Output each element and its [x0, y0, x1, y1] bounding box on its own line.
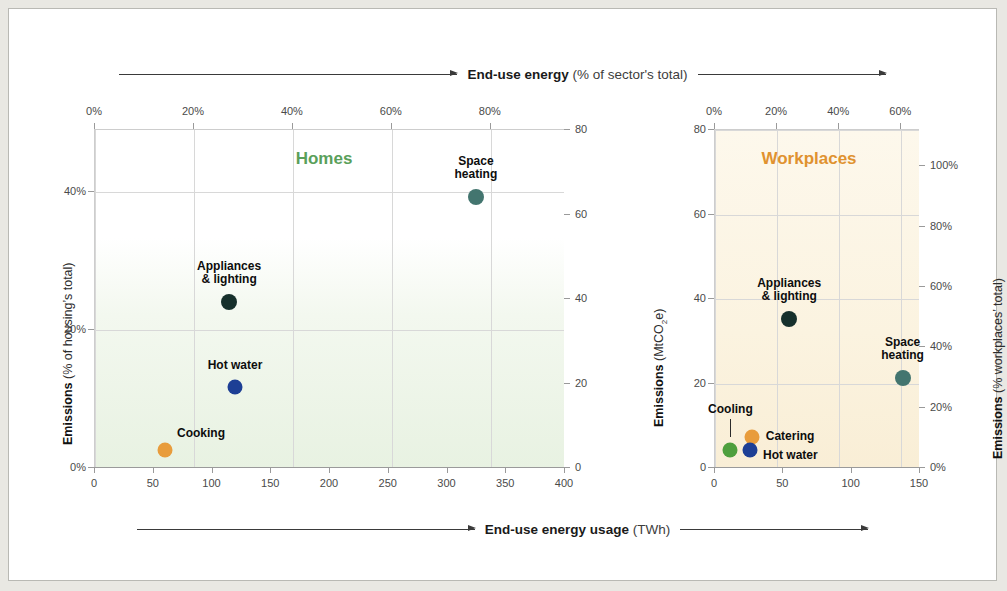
data-point-label-line: & lighting: [757, 290, 821, 303]
data-point-label-line: Cooling: [708, 403, 753, 416]
y-right-tick-label: 40%: [930, 340, 952, 352]
x-top-tick: [490, 123, 491, 129]
label-leader-line: [730, 419, 731, 437]
bottom-arrow-left: [137, 529, 475, 530]
data-point: [781, 311, 797, 327]
data-point-label: Spaceheating: [455, 155, 498, 181]
x-bottom-tick: [447, 467, 448, 473]
y-left-tick: [88, 329, 94, 330]
x-bottom-tick-label: 100: [841, 477, 859, 489]
x-top-tick: [714, 123, 715, 129]
x-top-tick-label: 0%: [86, 105, 102, 117]
data-point-label: Cooling: [708, 403, 753, 416]
x-top-tick-label: 0%: [706, 105, 722, 117]
data-point-label: Catering: [766, 430, 815, 443]
y-right-tick-label: 80: [575, 123, 587, 135]
y-left-tick-label: 60: [668, 208, 706, 220]
y-right-tick: [919, 165, 925, 166]
data-point: [228, 379, 243, 394]
data-point: [723, 443, 738, 458]
data-point: [895, 370, 911, 386]
y-right-tick-label: 20%: [930, 401, 952, 413]
data-point-label: Spaceheating: [881, 336, 924, 362]
y-right-tick-label: 60: [575, 208, 587, 220]
data-point-label: Hot water: [208, 359, 263, 372]
y-axis-title-right-unit: (% workplaces’ total): [991, 278, 1005, 393]
bottom-axis-caption: End-use energy usage (TWh): [485, 522, 670, 537]
x-top-tick-label: 80%: [479, 105, 501, 117]
x-top-tick-label: 20%: [182, 105, 204, 117]
figure-panel: End-use energy (% of sector's total) End…: [8, 8, 997, 581]
data-point-label-line: Hot water: [763, 449, 818, 462]
bottom-axis-caption-bold: End-use energy usage: [485, 522, 629, 537]
y-axis-title-bold: Emissions: [61, 382, 75, 445]
x-top-tick: [193, 123, 194, 129]
bottom-axis-caption-rest: (TWh): [633, 522, 671, 537]
x-bottom-tick: [714, 467, 715, 473]
y-right-tick: [919, 407, 925, 408]
y-left-tick: [88, 191, 94, 192]
data-point-label-line: & lighting: [197, 273, 261, 286]
y-left-tick: [708, 383, 714, 384]
y-right-tick: [919, 226, 925, 227]
gridline-vertical: [392, 130, 393, 467]
y-left-tick: [708, 129, 714, 130]
y-right-tick-label: 60%: [930, 280, 952, 292]
x-bottom-tick-label: 200: [320, 477, 338, 489]
x-bottom-tick: [782, 467, 783, 473]
gridline-horizontal: [715, 215, 919, 216]
y-left-tick-label: 80: [668, 123, 706, 135]
x-bottom-tick-label: 100: [202, 477, 220, 489]
y-right-tick: [564, 298, 570, 299]
x-bottom-tick: [851, 467, 852, 473]
x-top-tick: [391, 123, 392, 129]
x-bottom-tick-label: 50: [147, 477, 159, 489]
gridline-horizontal: [95, 192, 564, 193]
y-right-tick: [919, 286, 925, 287]
x-top-tick-label: 40%: [827, 105, 849, 117]
x-bottom-tick-label: 0: [91, 477, 97, 489]
gridline-horizontal: [715, 130, 919, 131]
y-left-tick-label: 0%: [48, 461, 86, 473]
y-right-tick-label: 80%: [930, 220, 952, 232]
x-top-tick-label: 60%: [889, 105, 911, 117]
y-axis-title-left: Emissions (% of housing’s total): [61, 262, 75, 445]
chart-homes: 0%20%40%60%80%0%20%40%050100150200250300…: [9, 9, 629, 509]
y-left-tick-label: 40: [668, 292, 706, 304]
gridline-vertical: [95, 130, 96, 467]
y-right-tick-label: 100%: [930, 159, 958, 171]
x-top-tick: [776, 123, 777, 129]
x-top-tick-label: 40%: [281, 105, 303, 117]
y-left-tick: [708, 214, 714, 215]
data-point: [468, 189, 484, 205]
x-bottom-axis-line: [714, 467, 919, 468]
chart-workplaces: 0%20%40%60%0204060800501001500%20%40%60%…: [629, 9, 998, 509]
x-bottom-tick-label: 400: [555, 477, 573, 489]
gridline-horizontal: [95, 330, 564, 331]
y-right-tick-label: 0%: [930, 461, 946, 473]
gridline-vertical: [293, 130, 294, 467]
x-bottom-tick-label: 300: [437, 477, 455, 489]
y-left-tick-label: 0: [668, 461, 706, 473]
data-point-label: Appliances& lighting: [757, 277, 821, 303]
data-point: [742, 443, 757, 458]
x-bottom-tick: [153, 467, 154, 473]
x-top-tick: [900, 123, 901, 129]
x-bottom-tick-label: 350: [496, 477, 514, 489]
data-point: [221, 294, 237, 310]
x-bottom-tick-label: 150: [910, 477, 928, 489]
y-right-tick: [564, 129, 570, 130]
gridline-horizontal: [715, 384, 919, 385]
data-point: [157, 443, 172, 458]
y-right-tick-label: 20: [575, 377, 587, 389]
x-bottom-tick: [94, 467, 95, 473]
data-point-label: Hot water: [763, 449, 818, 462]
bottom-arrow-right: [680, 529, 868, 530]
x-bottom-tick-label: 0: [711, 477, 717, 489]
x-bottom-tick-label: 150: [261, 477, 279, 489]
y-left-tick-label: 40%: [48, 185, 86, 197]
x-top-tick: [838, 123, 839, 129]
x-top-tick: [94, 123, 95, 129]
y-left-tick: [708, 298, 714, 299]
data-point-label-line: heating: [455, 168, 498, 181]
